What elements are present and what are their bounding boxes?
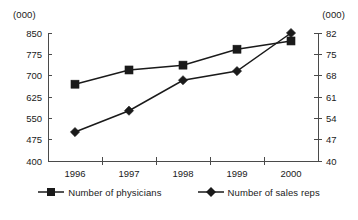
svg-text:625: 625 — [26, 92, 42, 103]
svg-text:40: 40 — [326, 156, 337, 167]
svg-text:700: 700 — [26, 70, 42, 81]
svg-text:61: 61 — [326, 92, 337, 103]
svg-text:2000: 2000 — [280, 168, 301, 179]
svg-text:68: 68 — [326, 70, 337, 81]
svg-text:550: 550 — [26, 113, 42, 124]
x-axis-ticks: 19961997199819992000 — [64, 157, 301, 179]
legend-label-sales-reps: Number of sales reps — [228, 187, 320, 198]
svg-text:54: 54 — [326, 113, 337, 124]
legend-item-physicians[interactable]: Number of physicians — [38, 186, 161, 198]
svg-text:1996: 1996 — [64, 168, 85, 179]
svg-text:1997: 1997 — [118, 168, 139, 179]
square-marker-icon — [38, 186, 64, 198]
diamond-marker-icon — [198, 186, 224, 198]
svg-text:82: 82 — [326, 28, 337, 39]
svg-text:775: 775 — [26, 49, 42, 60]
svg-text:475: 475 — [26, 134, 42, 145]
legend-item-sales-reps[interactable]: Number of sales reps — [198, 186, 320, 198]
chart-legend: Number of physicians Number of sales rep… — [0, 186, 358, 198]
line-chart: (000) (000) 400475550625700775850 404754… — [0, 0, 358, 220]
svg-text:47: 47 — [326, 134, 337, 145]
svg-text:1998: 1998 — [172, 168, 193, 179]
axis-lines — [48, 33, 318, 161]
svg-text:75: 75 — [326, 49, 337, 60]
legend-label-physicians: Number of physicians — [68, 187, 161, 198]
right-axis-ticks: 40475461687582 — [314, 28, 337, 167]
svg-text:400: 400 — [26, 156, 42, 167]
svg-text:850: 850 — [26, 28, 42, 39]
svg-text:1999: 1999 — [226, 168, 247, 179]
data-series — [70, 28, 295, 136]
